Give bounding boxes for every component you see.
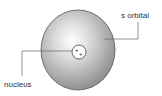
s-orbital-label: s orbital: [121, 11, 149, 20]
nucleus-label: nucleus: [4, 80, 32, 89]
proton-symbol: +: [79, 51, 83, 57]
